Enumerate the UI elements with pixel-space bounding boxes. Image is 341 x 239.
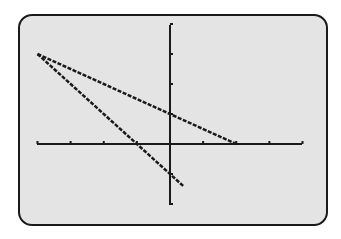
graph-plot [0, 0, 341, 239]
line-series-1 [38, 54, 237, 144]
plotted-lines [38, 54, 237, 186]
line-series-2 [38, 54, 184, 186]
